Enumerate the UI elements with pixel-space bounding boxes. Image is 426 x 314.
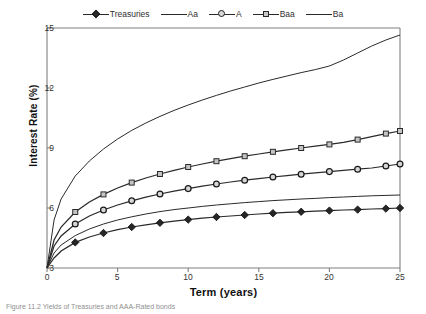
series-line-treasuries: [47, 208, 400, 268]
data-point-marker-a: [298, 171, 304, 177]
data-point-marker-treasuries: [354, 206, 361, 213]
data-point-marker-treasuries: [326, 207, 333, 214]
data-point-marker-baa: [327, 142, 332, 147]
data-point-marker-baa: [157, 172, 162, 177]
plot-area: [0, 0, 426, 314]
y-tick-label: 15: [14, 23, 54, 33]
data-point-marker-a: [72, 221, 78, 227]
data-point-marker-baa: [101, 192, 106, 197]
data-point-marker-baa: [398, 129, 403, 134]
data-point-marker-treasuries: [156, 219, 163, 226]
data-point-marker-treasuries: [241, 211, 248, 218]
figure-caption: Figure 11.2 Yields of Treasuries and AAA…: [6, 303, 421, 314]
data-point-marker-a: [129, 198, 135, 204]
data-point-marker-a: [270, 174, 276, 180]
data-point-marker-baa: [355, 137, 360, 142]
y-axis-label: Interest Rate (%): [28, 46, 39, 206]
axis-frame: [47, 28, 400, 268]
data-point-marker-treasuries: [128, 223, 135, 230]
x-tick-label: 0: [32, 272, 62, 282]
data-point-marker-a: [355, 166, 361, 172]
data-point-marker-baa: [383, 131, 388, 136]
data-point-marker-treasuries: [185, 216, 192, 223]
data-point-marker-treasuries: [396, 204, 403, 211]
y-tick-label: 6: [14, 203, 54, 213]
data-point-marker-a: [242, 177, 248, 183]
series-line-aa: [47, 195, 400, 268]
y-tick-label: 12: [14, 83, 54, 93]
data-point-marker-treasuries: [100, 229, 107, 236]
data-point-marker-a: [101, 207, 107, 213]
data-point-marker-baa: [129, 180, 134, 185]
x-tick-label: 10: [173, 272, 203, 282]
data-point-marker-a: [214, 181, 220, 187]
data-point-marker-a: [383, 163, 389, 169]
x-tick-label: 20: [314, 272, 344, 282]
x-tick-label: 5: [102, 272, 132, 282]
data-point-marker-treasuries: [297, 208, 304, 215]
interest-rate-term-structure-chart: Treasuries Aa A Baa Ba Interest Rate (%)…: [0, 0, 426, 314]
data-point-marker-baa: [299, 146, 304, 151]
data-point-marker-a: [157, 191, 163, 197]
data-point-marker-baa: [186, 165, 191, 170]
data-point-marker-treasuries: [269, 210, 276, 217]
x-tick-label: 15: [244, 272, 274, 282]
data-point-marker-a: [327, 169, 333, 175]
data-point-marker-a: [397, 161, 403, 167]
data-point-marker-baa: [270, 149, 275, 154]
data-point-marker-treasuries: [72, 239, 79, 246]
data-point-marker-a: [185, 186, 191, 192]
y-tick-label: 9: [14, 143, 54, 153]
x-tick-label: 25: [385, 272, 415, 282]
x-axis-label: Term (years): [47, 286, 400, 298]
data-point-marker-treasuries: [382, 205, 389, 212]
data-point-marker-baa: [214, 159, 219, 164]
data-point-marker-baa: [73, 210, 78, 215]
data-point-marker-treasuries: [213, 213, 220, 220]
data-point-marker-baa: [242, 154, 247, 159]
